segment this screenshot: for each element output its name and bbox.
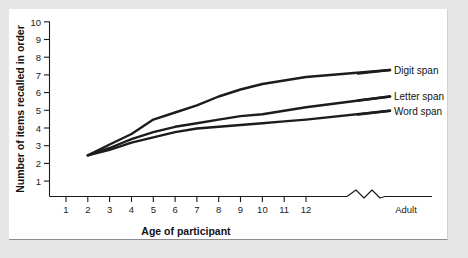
legend-label-word-span: Word span [394,106,442,117]
x-tick-label: 8 [216,204,221,215]
x-tick-label: 9 [238,204,243,215]
x-tick-label: 12 [301,204,312,215]
x-axis-tick-labels: 1 2 3 4 5 6 7 8 9 10 11 12 Adult [63,204,417,215]
y-axis-title: Number of items recalled in order [14,25,26,192]
y-tick-label: 6 [36,87,41,98]
legend-label-letter-span: Letter span [394,91,444,102]
x-tick-label: 1 [63,204,68,215]
y-tick-label: 3 [36,140,41,151]
y-tick-label: 2 [36,158,41,169]
y-tick-label: 7 [36,70,41,81]
x-axis-ticks [66,197,306,203]
legend-label-digit-span: Digit span [394,65,438,76]
legend-rule-letter-span [358,97,390,101]
x-tick-label: 7 [194,204,199,215]
y-axis-ticks [44,22,50,181]
x-axis-break-zigzag [347,190,432,198]
legend: Digit span Letter span Word span [358,65,444,117]
y-tick-label: 9 [36,34,41,45]
y-tick-label: 5 [36,105,41,116]
y-axis-tick-labels: 10 9 8 7 6 5 4 3 2 1 [30,17,41,187]
x-tick-label: 10 [257,204,268,215]
x-tick-label: 6 [172,204,177,215]
x-tick-label-adult: Adult [395,204,417,215]
y-tick-label: 4 [36,123,41,134]
y-tick-label: 1 [36,176,41,187]
x-axis-title: Age of participant [141,225,231,237]
x-tick-label: 2 [85,204,90,215]
x-tick-label: 11 [279,204,289,215]
line-chart-svg: 10 9 8 7 6 5 4 3 2 1 1 2 [0,0,468,258]
y-tick-label: 10 [30,17,41,28]
y-tick-label: 8 [36,52,41,63]
x-tick-label: 3 [107,204,112,215]
x-tick-label: 4 [129,204,134,215]
chart-figure: 10 9 8 7 6 5 4 3 2 1 1 2 [0,0,468,258]
x-tick-label: 5 [151,204,156,215]
